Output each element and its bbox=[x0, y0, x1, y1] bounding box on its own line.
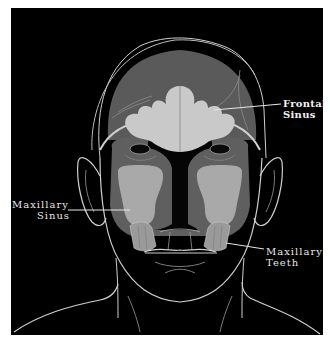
frontal-sinus-label-line2: Sinus bbox=[283, 109, 326, 120]
right-eye bbox=[210, 144, 230, 154]
maxillary-teeth-label-line2: Teeth bbox=[266, 257, 323, 268]
sinus-diagram: Frontal Sinus Maxillary Sinus Maxillary … bbox=[0, 0, 330, 345]
maxillary-sinus-label: Maxillary Sinus bbox=[12, 199, 72, 221]
frontal-sinus-label: Frontal Sinus bbox=[283, 98, 326, 120]
right-ear bbox=[254, 158, 282, 226]
maxillary-teeth-label: Maxillary Teeth bbox=[266, 246, 323, 268]
maxillary-sinus-label-line1: Maxillary bbox=[12, 199, 72, 210]
left-shoulder bbox=[14, 284, 118, 332]
maxillary-sinus-label-line2: Sinus bbox=[12, 210, 72, 221]
frontal-sinus-label-line1: Frontal bbox=[283, 98, 326, 109]
right-shoulder bbox=[242, 282, 320, 334]
head-illustration bbox=[0, 0, 330, 345]
maxillary-teeth-label-line1: Maxillary bbox=[266, 246, 323, 257]
left-eye bbox=[130, 144, 150, 154]
maxillary-teeth-leader bbox=[226, 243, 264, 249]
